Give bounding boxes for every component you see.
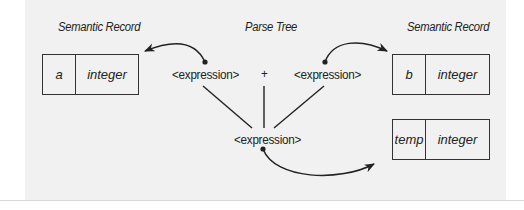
arrow-to-record-a [145, 44, 205, 62]
arrow-to-record-b [325, 43, 387, 62]
connector-lines [0, 0, 524, 210]
tree-edge-right [274, 86, 324, 128]
arrow-to-record-temp [263, 149, 374, 175]
tree-edge-left [203, 86, 252, 128]
